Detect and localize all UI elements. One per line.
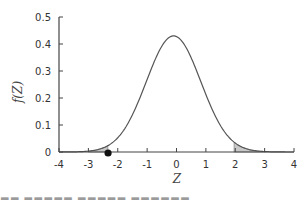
x-tick-label: 4	[291, 159, 297, 170]
y-tick-label: 0.1	[35, 120, 51, 131]
x-tick-label: -3	[83, 159, 93, 170]
x-tick-label: 0	[173, 159, 179, 170]
x-tick-label: 2	[232, 159, 238, 170]
x-tick-label: -4	[54, 159, 64, 170]
x-tick-label: -2	[113, 159, 123, 170]
density-curve	[59, 36, 294, 152]
x-tick-label: -1	[142, 159, 152, 170]
x-tick-label: 1	[203, 159, 209, 170]
figure-caption: ▬▬ ▬▬▬▬▬ ▬▬▬▬▬ ▬▬▬▬▬▬	[0, 193, 308, 200]
critical-value-marker	[104, 149, 111, 156]
y-tick-label: 0.5	[35, 12, 51, 23]
y-tick-label: 0.3	[35, 66, 51, 77]
normal-distribution-chart: 00.10.20.30.40.5 -4-3-2-101234 Z f(Z)	[0, 0, 308, 200]
y-axis-title: f(Z)	[11, 81, 25, 104]
y-tick-label: 0.2	[35, 93, 51, 104]
y-tick-label: 0	[45, 147, 51, 158]
x-tick-label: 3	[261, 159, 267, 170]
x-axis-title: Z	[172, 172, 182, 186]
shaded-region-right-tail	[234, 142, 265, 152]
y-tick-label: 0.4	[35, 39, 51, 50]
